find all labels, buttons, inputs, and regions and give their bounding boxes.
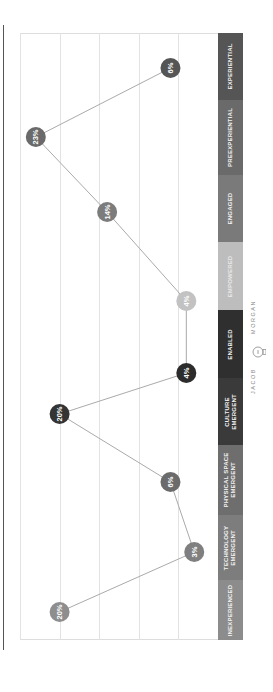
category-label: PREEXPERIENTIAL	[227, 108, 234, 167]
data-label: 6%	[166, 62, 175, 73]
data-point: 20%	[50, 602, 70, 622]
category-segment: TECHNOLOGYEMERGENT	[218, 515, 243, 580]
data-label: 6%	[166, 476, 175, 487]
category-segment: CULTUREEMERGENT	[218, 378, 243, 445]
data-label: 4%	[182, 367, 191, 378]
category-segment: PHYSICAL SPACEEMERGENT	[218, 445, 243, 515]
data-point: 23%	[26, 127, 46, 147]
data-label: 20%	[55, 604, 64, 619]
data-point: 4%	[176, 363, 196, 383]
category-bar: INEXPERIENCEDTECHNOLOGYEMERGENTPHYSICAL …	[218, 33, 243, 640]
logo-jacob: JACOB	[250, 368, 256, 394]
data-label: 23%	[31, 129, 40, 144]
category-label: TECHNOLOGYEMERGENT	[224, 525, 238, 569]
lightbulb-icon	[253, 347, 266, 357]
category-segment: ENABLED	[218, 310, 243, 378]
data-point: 6%	[160, 472, 180, 492]
category-segment: PREEXPERIENTIAL	[218, 100, 243, 175]
data-point: 14%	[97, 202, 117, 222]
category-label: EMPOWERED	[227, 255, 234, 297]
category-segment: ENGAGED	[218, 175, 243, 242]
data-label: 3%	[190, 546, 199, 557]
data-point: 6%	[160, 58, 180, 78]
category-segment: EMPOWERED	[218, 242, 243, 310]
logo: JACOB MORGAN	[250, 290, 266, 410]
data-point: 20%	[50, 404, 70, 424]
data-label: 20%	[55, 406, 64, 421]
category-label: ENGAGED	[227, 193, 234, 225]
category-segment: EXPERIENTIAL	[218, 33, 243, 100]
logo-morgan: MORGAN	[250, 300, 256, 334]
category-label: INEXPERIENCED	[227, 584, 234, 636]
category-label: EXPERIENTIAL	[227, 43, 234, 89]
category-label: PHYSICAL SPACEEMERGENT	[224, 453, 238, 508]
data-label: 14%	[103, 204, 112, 219]
category-label: ENABLED	[227, 329, 234, 359]
category-label: CULTUREEMERGENT	[224, 394, 238, 430]
data-point: 3%	[184, 542, 204, 562]
category-segment: INEXPERIENCED	[218, 580, 243, 640]
series-line	[36, 68, 194, 612]
data-point: 4%	[176, 291, 196, 311]
data-label: 4%	[182, 295, 191, 306]
